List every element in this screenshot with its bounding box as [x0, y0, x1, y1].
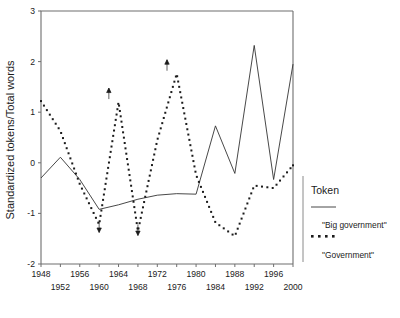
- series-dot: [140, 217, 142, 219]
- series-dot: [153, 154, 155, 156]
- series-dot: [69, 157, 71, 159]
- x-tick-label-lower: 1976: [167, 282, 186, 292]
- series-dot: [196, 176, 198, 178]
- series-dot: [122, 131, 124, 133]
- series-dot: [290, 167, 292, 169]
- series-dot: [145, 190, 147, 192]
- series-dot: [187, 134, 189, 136]
- series-dot: [190, 149, 192, 151]
- series-dot: [116, 108, 118, 110]
- series-dot: [110, 151, 112, 153]
- x-tick-label-upper: 1996: [264, 269, 283, 279]
- x-tick-label-upper: 1980: [187, 269, 206, 279]
- y-axis-label: Standardized tokens/Total words: [4, 60, 16, 219]
- series-dot: [64, 142, 66, 144]
- series-dot: [46, 109, 48, 111]
- series-dot: [200, 186, 202, 188]
- series-dot: [118, 105, 120, 107]
- series-dot: [172, 86, 174, 88]
- series-dot: [272, 187, 274, 189]
- series-dot: [120, 121, 122, 123]
- series-dot: [185, 123, 187, 125]
- series-dot: [206, 201, 208, 203]
- series-dot: [155, 143, 157, 145]
- series-dot: [117, 103, 119, 105]
- series-dot: [121, 126, 123, 128]
- series-dot: [115, 119, 117, 121]
- series-dot: [95, 217, 97, 219]
- legend-dot: [311, 235, 314, 238]
- series-dot: [108, 162, 110, 164]
- series-dot: [182, 107, 184, 109]
- series-dot: [101, 204, 103, 206]
- series-dot: [124, 147, 126, 149]
- legend-title: Token: [311, 184, 339, 196]
- series-dot: [198, 181, 200, 183]
- series-dot: [218, 224, 220, 226]
- series-dot: [202, 191, 204, 193]
- y-tick-label: 0: [30, 158, 35, 168]
- x-tick-label-upper: 1988: [225, 269, 244, 279]
- series-dot: [83, 192, 85, 194]
- series-dot: [120, 115, 122, 117]
- x-tick-label-upper: 1956: [70, 269, 89, 279]
- series-dot: [100, 215, 102, 217]
- y-tick-label: -2: [27, 259, 35, 269]
- series-dot: [169, 96, 171, 98]
- series-dot: [68, 152, 70, 154]
- series-dot: [105, 183, 107, 185]
- series-dot: [136, 222, 138, 224]
- series-dot: [124, 142, 126, 144]
- x-tick-label-upper: 1964: [109, 269, 128, 279]
- series-dot: [191, 155, 193, 157]
- series-dot: [119, 110, 121, 112]
- series-dot: [237, 228, 239, 230]
- series-dot: [160, 127, 162, 129]
- x-tick-label-lower: 1968: [128, 282, 147, 292]
- series-dot: [144, 196, 146, 198]
- x-tick-label-lower: 1992: [245, 282, 264, 292]
- series-dot: [52, 118, 54, 120]
- series-dot: [86, 197, 88, 199]
- series-dot: [163, 117, 165, 119]
- series-dot: [188, 139, 190, 141]
- series-dot: [127, 163, 129, 165]
- series-dot: [93, 212, 95, 214]
- series-dot: [146, 185, 148, 187]
- series-dot: [170, 91, 172, 93]
- series-dot: [71, 162, 73, 164]
- series-dot: [129, 174, 131, 176]
- series-dot: [133, 201, 135, 203]
- series-dot: [135, 217, 137, 219]
- series-dot: [261, 186, 263, 188]
- series-dot: [60, 132, 62, 134]
- y-tick-label: 2: [30, 57, 35, 67]
- series-dot: [248, 197, 250, 199]
- series-dot: [192, 160, 194, 162]
- series-dot: [193, 165, 195, 167]
- series-dot: [134, 211, 136, 213]
- series-dot: [49, 114, 51, 116]
- series-dot: [154, 148, 156, 150]
- series-dot: [189, 144, 191, 146]
- series-dot: [75, 173, 77, 175]
- series-dot: [130, 185, 132, 187]
- series-dot: [186, 128, 188, 130]
- series-dot: [112, 135, 114, 137]
- series-dot: [58, 127, 60, 129]
- x-tick-label-lower: 1952: [51, 282, 70, 292]
- series-dot: [210, 211, 212, 213]
- series-dot: [81, 188, 83, 190]
- x-tick-label-upper: 1972: [148, 269, 167, 279]
- series-dot: [43, 105, 45, 107]
- series-dot: [111, 146, 113, 148]
- series-dot: [183, 112, 185, 114]
- line-chart: Standardized tokens/Total words 3210-1-2…: [0, 0, 400, 318]
- series-dot: [103, 194, 105, 196]
- series-dot: [173, 81, 175, 83]
- series-dot: [227, 230, 229, 232]
- series-dot: [244, 208, 246, 210]
- series-dot: [243, 213, 245, 215]
- series-dot: [179, 91, 181, 93]
- series-dot: [283, 175, 285, 177]
